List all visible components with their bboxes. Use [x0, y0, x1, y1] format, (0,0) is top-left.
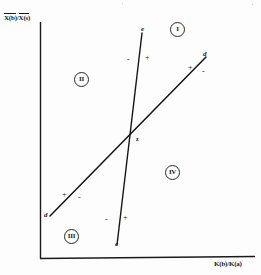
sign-d-lower-plus: + [62, 191, 67, 199]
endpoint-label-d-lower-left: d [44, 211, 48, 219]
scan-speck [122, 3, 123, 4]
plot-canvas [0, 0, 261, 275]
sign-d-upper-minus: - [202, 68, 205, 76]
quadrant-label-3: III [64, 229, 79, 244]
y-axis-label: X(b)/X(s) [4, 14, 30, 22]
endpoint-label-e-top: e [141, 25, 144, 33]
y-axis-denominator: X(s) [19, 14, 31, 22]
sign-e-top-right: + [145, 54, 150, 62]
sign-e-bottom-left: - [105, 216, 108, 224]
sign-e-bottom-right: + [123, 214, 128, 222]
sign-d-lower-minus: - [78, 194, 81, 202]
figure-container: X(b)/X(s) K(b)/K(a) I II III IV e e d d … [0, 0, 261, 275]
quadrant-label-1: I [170, 22, 185, 37]
sign-e-top-left: - [127, 56, 130, 64]
intersection-label: z [136, 136, 139, 142]
y-axis-numerator: X(b) [4, 14, 17, 22]
sign-d-upper-plus: + [188, 64, 193, 72]
scan-speck [252, 4, 253, 5]
endpoint-label-e-bottom: e [115, 240, 118, 248]
quadrant-label-2: II [74, 72, 89, 87]
quadrant-label-4: IV [165, 165, 180, 180]
endpoint-label-d-upper-right: d [203, 50, 207, 58]
x-axis-line [40, 257, 255, 259]
x-axis-label: K(b)/K(a) [214, 260, 242, 268]
